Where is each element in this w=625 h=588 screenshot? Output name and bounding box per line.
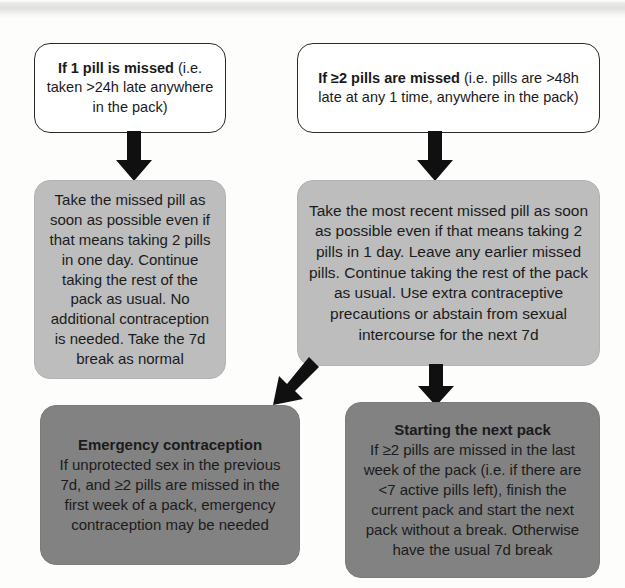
- node-action-two-pills-missed: Take the most recent missed pill as soon…: [297, 180, 600, 366]
- node-body-text: If ≥2 pills are missed in the last week …: [364, 441, 582, 558]
- node-lead-text: Starting the next pack: [394, 421, 551, 438]
- node-text: Take the most recent missed pill as soon…: [308, 201, 589, 345]
- arrow-action-two-to-emergency: [262, 355, 320, 409]
- node-lead-text: If 1 pill is missed: [58, 60, 174, 76]
- node-lead-text: Emergency contraception: [78, 436, 262, 453]
- flowchart-canvas: If 1 pill is missed (i.e. taken >24h lat…: [0, 0, 625, 588]
- node-emergency-contraception: Emergency contraceptionIf unprotected se…: [40, 405, 300, 565]
- node-if-two-or-more-pills-missed: If ≥2 pills are missed (i.e. pills are >…: [297, 43, 600, 133]
- node-text: Starting the next packIf ≥2 pills are mi…: [356, 420, 589, 560]
- arrow-missed-one-to-action-one: [112, 131, 156, 181]
- scan-artifact-band-secondary: [0, 13, 625, 18]
- node-text: If 1 pill is missed (i.e. taken >24h lat…: [45, 59, 215, 117]
- node-text: If ≥2 pills are missed (i.e. pills are >…: [308, 69, 589, 108]
- node-action-one-pill-missed: Take the missed pill as soon as possible…: [34, 180, 226, 379]
- node-lead-text: If ≥2 pills are missed: [318, 70, 460, 86]
- node-text: Take the missed pill as soon as possible…: [45, 190, 215, 369]
- node-starting-the-next-pack: Starting the next packIf ≥2 pills are mi…: [345, 402, 600, 578]
- arrow-missed-two-to-action-two: [413, 131, 457, 181]
- node-body-text: If unprotected sex in the previous 7d, a…: [60, 456, 281, 533]
- node-text: Emergency contraceptionIf unprotected se…: [51, 435, 289, 535]
- scan-artifact-band: [0, 0, 625, 14]
- arrow-action-two-to-next-pack: [414, 364, 458, 406]
- node-if-one-pill-missed: If 1 pill is missed (i.e. taken >24h lat…: [34, 43, 226, 133]
